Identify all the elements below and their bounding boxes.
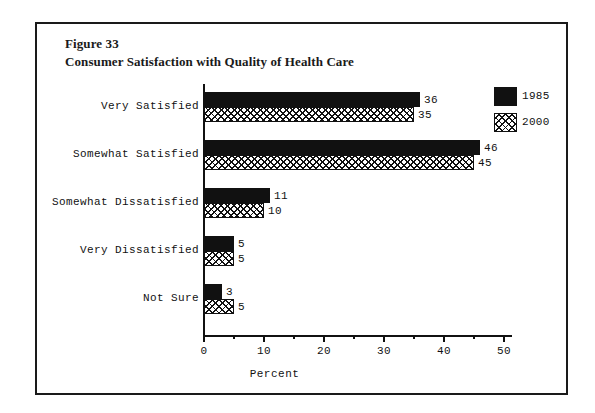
legend-label-1985: 1985 [522, 90, 550, 102]
x-tick-label: 20 [299, 345, 349, 357]
figure-frame: Figure 33 Consumer Satisfaction with Qua… [35, 22, 568, 395]
x-tick-label: 40 [419, 345, 469, 357]
bar-2000-very-dissatisfied [204, 251, 234, 266]
bar-value-label: 36 [424, 94, 438, 106]
y-category-label: Very Satisfied [37, 100, 199, 112]
legend-swatch-2000 [494, 113, 517, 132]
legend-swatch-1985 [494, 87, 517, 106]
bar-2000-somewhat-satisfied [204, 155, 474, 170]
x-tick-label: 50 [479, 345, 529, 357]
x-tick-label: 0 [179, 345, 229, 357]
bar-1985-very-satisfied [204, 92, 420, 107]
y-category-label: Somewhat Satisfied [37, 148, 199, 160]
bar-1985-very-dissatisfied [204, 236, 234, 251]
bar-value-label: 5 [238, 238, 245, 250]
bar-1985-not-sure [204, 284, 222, 299]
x-tick-label: 10 [239, 345, 289, 357]
chart-plot-area: 01020304050PercentVery Satisfied3635Some… [37, 24, 570, 397]
bar-value-label: 3 [226, 286, 233, 298]
bar-1985-somewhat-dissatisfied [204, 188, 270, 203]
bar-1985-somewhat-satisfied [204, 140, 480, 155]
chart-axes [37, 24, 570, 397]
bar-2000-not-sure [204, 299, 234, 314]
bar-value-label: 5 [238, 301, 245, 313]
bar-2000-somewhat-dissatisfied [204, 203, 264, 218]
legend-label-2000: 2000 [522, 116, 550, 128]
y-category-label: Not Sure [37, 292, 199, 304]
y-category-label: Very Dissatisfied [37, 244, 199, 256]
bar-value-label: 10 [268, 205, 282, 217]
x-axis-title: Percent [37, 368, 512, 380]
x-tick-label: 30 [359, 345, 409, 357]
bar-value-label: 11 [274, 190, 288, 202]
bar-value-label: 35 [418, 109, 432, 121]
bar-value-label: 45 [478, 157, 492, 169]
y-category-label: Somewhat Dissatisfied [37, 196, 199, 208]
bar-value-label: 46 [484, 142, 498, 154]
bar-2000-very-satisfied [204, 107, 414, 122]
bar-value-label: 5 [238, 253, 245, 265]
